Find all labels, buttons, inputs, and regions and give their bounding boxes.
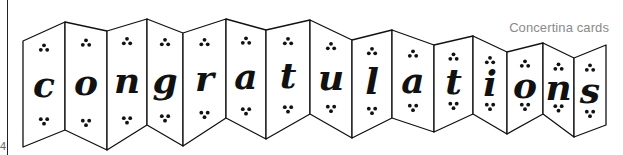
card-letter: n <box>114 59 140 101</box>
card-panel: i <box>473 36 507 134</box>
card-panel: g <box>147 19 183 146</box>
card-panel: n <box>543 43 574 137</box>
card-letter: u <box>318 56 344 98</box>
card-letter: n <box>545 66 571 108</box>
card-letter: t <box>445 60 462 102</box>
card-letter: s <box>579 69 600 111</box>
card-letter: a <box>234 55 257 97</box>
card-panel: a <box>226 19 266 139</box>
card-panel: t <box>434 36 473 132</box>
card-panel: c <box>23 22 65 147</box>
card-letter: c <box>33 63 55 105</box>
card-panel: s <box>574 45 606 137</box>
card-letter: a <box>401 59 424 101</box>
card-letter: l <box>365 60 379 102</box>
card-letter: o <box>513 64 537 106</box>
card-letter: t <box>280 54 297 96</box>
card-panel: r <box>183 19 226 146</box>
card-letter: o <box>74 61 98 103</box>
card-panel: n <box>107 19 147 150</box>
concertina-card-illustration: congratulations <box>0 0 623 155</box>
card-letter: i <box>483 62 497 104</box>
card-letter: g <box>152 59 177 101</box>
card-panel: t <box>266 20 310 139</box>
card-panel: o <box>507 43 543 134</box>
card-panel: a <box>392 30 434 132</box>
card-panel: l <box>352 30 392 138</box>
card-panel: u <box>310 20 352 138</box>
card-letter: r <box>195 57 217 99</box>
card-panel: o <box>65 22 107 150</box>
